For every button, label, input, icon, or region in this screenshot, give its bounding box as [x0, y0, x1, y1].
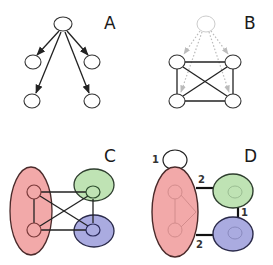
group-c-green: [74, 169, 114, 201]
weight-d-loop: 1: [152, 154, 159, 165]
group-c-blue: [74, 215, 114, 247]
panel-d: D 1 2 2 1: [152, 146, 257, 257]
edge-b-faded-tl: [184, 31, 200, 54]
weight-d-red-green: 2: [198, 174, 205, 185]
node-b-tr: [225, 55, 241, 69]
edge-a-root-l1: [37, 31, 59, 55]
group-c-red: [10, 167, 52, 255]
panel-b: B: [169, 13, 256, 108]
node-b-br: [225, 94, 241, 108]
panel-label-d: D: [244, 146, 257, 166]
panel-a: A: [24, 13, 116, 108]
weight-d-red-blue: 2: [196, 239, 203, 250]
node-a-l1: [25, 55, 41, 69]
graph-diagram: A B C: [0, 0, 273, 265]
node-a-l2: [24, 94, 40, 108]
node-a-root: [54, 17, 72, 31]
supernode-d-blue: [213, 217, 253, 251]
node-b-tl: [169, 55, 185, 69]
edge-a-root-r1: [67, 31, 88, 55]
node-b-bl: [169, 94, 185, 108]
supernode-d-green: [213, 174, 253, 208]
node-a-r1: [84, 55, 100, 69]
edge-b-faded-tr: [211, 31, 228, 54]
panel-c: C: [10, 146, 116, 255]
node-b-faded-root: [197, 16, 215, 32]
panel-label-c: C: [104, 146, 116, 166]
node-a-r2: [84, 94, 100, 108]
panel-label-b: B: [244, 13, 256, 33]
weight-d-green-blue: 1: [241, 207, 248, 218]
panel-label-a: A: [104, 13, 116, 33]
